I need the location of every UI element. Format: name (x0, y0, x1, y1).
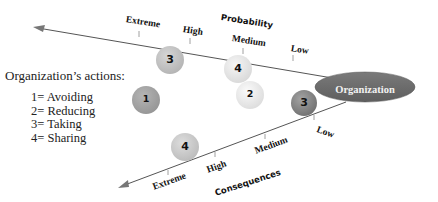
bubble-number: 4 (220, 62, 256, 75)
consequences-axis (118, 102, 346, 188)
legend-item-taking: 3= Taking (31, 118, 125, 132)
legend: Organization’s actions: 1= Avoiding 2= R… (5, 68, 125, 145)
arrowhead-icon (33, 25, 45, 32)
legend-item-sharing: 4= Sharing (31, 132, 125, 146)
legend-title: Organization’s actions: (5, 68, 125, 84)
arrowhead-icon (118, 180, 129, 188)
bubble-number: 4 (167, 140, 203, 153)
bubble-number: 1 (128, 93, 164, 104)
bubble-number: 3 (286, 96, 322, 109)
legend-item-reducing: 2= Reducing (31, 105, 125, 119)
bubble-number: 3 (152, 53, 188, 66)
legend-item-avoiding: 1= Avoiding (31, 91, 125, 105)
bubble-number: 2 (232, 88, 268, 99)
organization-label: Organization (316, 84, 414, 95)
legend-list: 1= Avoiding 2= Reducing 3= Taking 4= Sha… (31, 91, 125, 145)
